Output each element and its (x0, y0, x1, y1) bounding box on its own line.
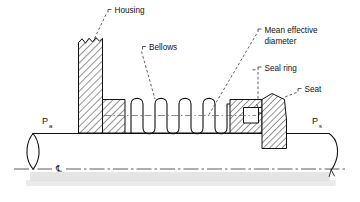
seat-part (262, 94, 287, 149)
diagram-canvas: Housing Bellows Mean effective diameter … (0, 0, 360, 202)
pressure-sealed-symbol: P (312, 116, 318, 126)
bellows-leader (142, 47, 156, 100)
seat-label: Seat (305, 85, 323, 94)
mean-effective-diameter-label-line1: Mean effective (265, 26, 319, 35)
bellows-label: Bellows (149, 43, 177, 52)
pressure-ambient-symbol: P (42, 116, 48, 126)
pressure-ambient-label: P a (42, 116, 53, 129)
mean-effective-diameter-label-line2: diameter (265, 37, 297, 46)
pressure-ambient-subscript: a (49, 123, 53, 129)
seal-ring-label: Seal ring (265, 64, 298, 73)
pressure-sealed-label: P s (312, 116, 322, 129)
shaft (27, 134, 338, 177)
bellows-seal-diagram: Housing Bellows Mean effective diameter … (0, 0, 360, 202)
bellows-part (125, 98, 230, 133)
housing-label: Housing (115, 6, 145, 15)
paper-smudge (26, 172, 336, 186)
centerline-symbol-label: ℄ (55, 164, 62, 174)
pressure-sealed-subscript: s (319, 123, 322, 129)
housing-leader (94, 10, 112, 41)
housing-part (79, 38, 126, 133)
seat-leader (285, 89, 302, 98)
